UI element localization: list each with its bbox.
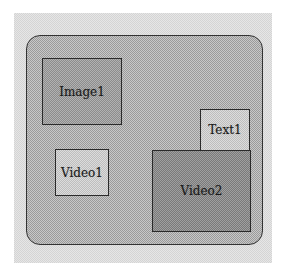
region-label: Text1 <box>208 123 241 137</box>
region-label: Image1 <box>59 85 105 99</box>
region-image1[interactable]: Image1 <box>42 58 122 125</box>
region-text1[interactable]: Text1 <box>200 109 250 151</box>
region-video1[interactable]: Video1 <box>55 149 109 196</box>
region-video2[interactable]: Video2 <box>152 150 251 232</box>
region-label: Video2 <box>181 184 223 198</box>
region-label: Video1 <box>61 166 103 180</box>
